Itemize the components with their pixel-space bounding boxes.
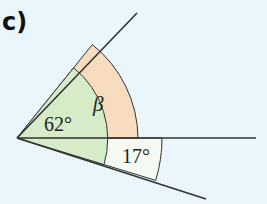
angle-17-label: 17° xyxy=(122,145,150,167)
angle-diagram: 62° β 17° xyxy=(0,0,267,204)
angle-62-label: 62° xyxy=(44,113,72,135)
angle-beta-label: β xyxy=(92,92,104,116)
